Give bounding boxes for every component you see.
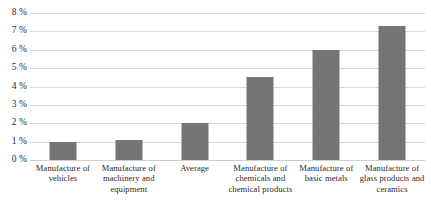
bar bbox=[379, 26, 406, 160]
y-axis: 8 %7 %6 %5 %4 %3 %2 %1 %0 % bbox=[0, 13, 27, 160]
bar-slot bbox=[96, 13, 162, 160]
y-axis-tick-label: 0 % bbox=[1, 155, 27, 165]
bar bbox=[49, 142, 76, 160]
x-axis-tick-label: Manufacture of vehicles bbox=[30, 163, 96, 184]
bars-layer bbox=[30, 13, 425, 160]
x-axis-tick-label: Manufacture of machinery and equipment bbox=[96, 163, 162, 194]
bar-slot bbox=[293, 13, 359, 160]
bar-chart: 8 %7 %6 %5 %4 %3 %2 %1 %0 % Manufacture … bbox=[0, 0, 431, 206]
y-axis-tick-label: 7 % bbox=[1, 27, 27, 37]
bar bbox=[247, 77, 274, 160]
bar-slot bbox=[162, 13, 228, 160]
y-axis-tick-label: 1 % bbox=[1, 137, 27, 147]
bar bbox=[115, 140, 142, 160]
x-axis-tick-label: Average bbox=[162, 163, 228, 173]
x-axis-tick-label: Manufacture of basic metals bbox=[293, 163, 359, 184]
bar-slot bbox=[228, 13, 294, 160]
gridline bbox=[30, 160, 425, 161]
y-axis-tick-label: 6 % bbox=[1, 45, 27, 55]
y-axis-tick-label: 5 % bbox=[1, 63, 27, 73]
y-axis-tick-label: 4 % bbox=[1, 82, 27, 92]
y-axis-tick-label: 3 % bbox=[1, 100, 27, 110]
x-axis-tick-label: Manufacture of chemicals and chemical pr… bbox=[228, 163, 294, 194]
bar bbox=[181, 123, 208, 160]
x-axis: Manufacture of vehiclesManufacture of ma… bbox=[30, 163, 425, 206]
y-axis-tick-label: 2 % bbox=[1, 119, 27, 129]
bar-slot bbox=[359, 13, 425, 160]
x-axis-tick-label: Manufacture of glass products and cerami… bbox=[359, 163, 425, 194]
bar bbox=[313, 50, 340, 160]
y-axis-tick-label: 8 % bbox=[1, 8, 27, 18]
bar-slot bbox=[30, 13, 96, 160]
